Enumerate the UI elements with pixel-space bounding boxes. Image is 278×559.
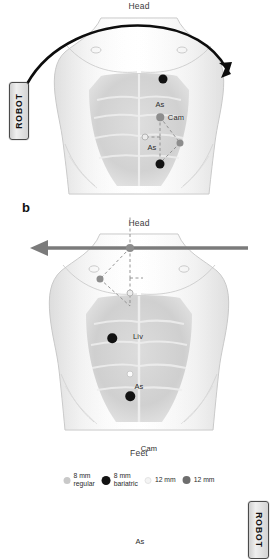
legend-line2-8mm-bariatric: bariatric [114, 480, 138, 488]
legend-dot-12mm-dark-icon [183, 476, 191, 484]
legend-text-8mm-bariatric: 8 mm bariatric [114, 472, 138, 488]
legend-text-8mm-regular: 8 mm regular [74, 472, 95, 488]
legend-item-12mm-dark: 12 mm [183, 476, 215, 484]
legend-row: 8 mm regular 8 mm bariatric 12 mm 12 mm [64, 472, 215, 488]
legend-item-8mm-bariatric: 8 mm bariatric [102, 472, 138, 488]
port-assistant-lower-b [125, 391, 135, 401]
legend-dot-8mm-regular-icon [64, 477, 71, 484]
legend-text-12mm-light: 12 mm [155, 476, 176, 484]
port-arm-lateral-b [97, 276, 104, 283]
port-label-as-lower-b: As [135, 537, 144, 546]
legend-line1-8mm-bariatric: 8 mm [114, 472, 138, 480]
orientation-label-feet: Feet [0, 448, 278, 458]
legend-dot-12mm-light-icon [145, 477, 152, 484]
legend-line1-8mm-regular: 8 mm [74, 472, 95, 480]
legend-text-12mm-dark: 12 mm [194, 476, 215, 484]
port-arm-lower-b [127, 290, 134, 297]
legend-item-8mm-regular: 8 mm regular [64, 472, 95, 488]
legend-dot-8mm-bariatric-icon [102, 476, 111, 485]
legend-item-12mm-light: 12 mm [145, 476, 176, 484]
legend-line2-8mm-regular: regular [74, 480, 95, 488]
legend: Feet 8 mm regular 8 mm bariatric 12 mm [0, 444, 278, 520]
port-camera-b [126, 244, 134, 252]
